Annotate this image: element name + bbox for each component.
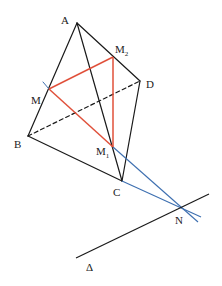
line-M1-N bbox=[113, 147, 198, 222]
edge-AD bbox=[77, 23, 140, 81]
label-D: D bbox=[146, 78, 154, 90]
tick-mark-M bbox=[43, 82, 49, 89]
label-N: N bbox=[175, 214, 183, 226]
label-M: M bbox=[31, 94, 41, 106]
edge-BD-hidden bbox=[28, 81, 140, 136]
segment-M-M2 bbox=[49, 57, 113, 89]
label-delta: Δ bbox=[86, 261, 93, 273]
line-delta bbox=[76, 194, 209, 258]
label-A: A bbox=[61, 14, 69, 26]
edge-CD bbox=[122, 81, 140, 181]
construction-lines bbox=[113, 147, 201, 222]
line-C-N bbox=[122, 181, 201, 217]
tetrahedron-diagram: A B C D M M1 M2 N Δ bbox=[0, 0, 222, 286]
label-C: C bbox=[113, 186, 120, 198]
section-triangle bbox=[49, 57, 113, 147]
label-M1: M1 bbox=[96, 145, 110, 160]
label-M2: M2 bbox=[115, 43, 129, 58]
segment-M-M1 bbox=[49, 89, 113, 147]
label-B: B bbox=[14, 138, 21, 150]
